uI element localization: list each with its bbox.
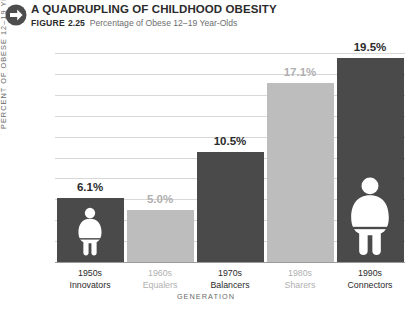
x-tick-generation: Balancers (195, 280, 265, 292)
chart-plot-area: 0.0%2.0%4.0%6.0%8.0%10.0%12.0%14.0%16.0%… (55, 53, 405, 262)
figure-number: 2.25 (68, 18, 85, 28)
bar-1950s[interactable] (57, 198, 124, 262)
bar-1980s[interactable] (267, 83, 334, 262)
figure-container: A QUADRUPLING OF CHILDHOOD OBESITY FIGUR… (0, 0, 412, 310)
x-tick-generation: Sharers (265, 280, 335, 292)
bar-value-label: 6.1% (57, 181, 124, 193)
bar-value-label: 19.5% (337, 41, 404, 53)
figure-caption-text: Percentage of Obese 12–19 Year-Olds (90, 18, 238, 28)
figure-header: A QUADRUPLING OF CHILDHOOD OBESITY FIGUR… (0, 0, 412, 36)
bar-1970s[interactable] (197, 152, 264, 262)
bar-value-label: 5.0% (127, 193, 194, 205)
x-axis-tick-1980s: 1980sSharers (265, 268, 335, 291)
obese-person-icon (344, 176, 396, 260)
x-tick-generation: Equalers (125, 280, 195, 292)
x-tick-generation: Innovators (55, 280, 125, 292)
x-axis-tick-1990s: 1990sConnectors (335, 268, 405, 291)
bar-1960s[interactable] (127, 210, 194, 262)
x-tick-decade: 1960s (125, 268, 195, 280)
x-tick-decade: 1990s (335, 268, 405, 280)
figure-caption: FIGURE2.25Percentage of Obese 12–19 Year… (31, 18, 237, 28)
obese-person-icon (74, 207, 106, 260)
x-tick-decade: 1980s (265, 268, 335, 280)
arrow-right-circle-icon (5, 4, 27, 26)
axis-baseline (55, 262, 405, 263)
x-tick-decade: 1970s (195, 268, 265, 280)
x-axis-tick-1960s: 1960sEqualers (125, 268, 195, 291)
bar-value-label: 10.5% (197, 135, 264, 147)
x-tick-decade: 1950s (55, 268, 125, 280)
x-axis-tick-1970s: 1970sBalancers (195, 268, 265, 291)
y-axis-label: PERCENT OF OBESE 12–19 YEAR-OLDS (0, 0, 8, 129)
x-axis-label: GENERATION (0, 292, 412, 301)
bar-value-label: 17.1% (267, 66, 334, 78)
x-axis-tick-1950s: 1950sInnovators (55, 268, 125, 291)
bar-1990s[interactable] (337, 58, 404, 262)
page-title: A QUADRUPLING OF CHILDHOOD OBESITY (31, 3, 277, 15)
x-tick-generation: Connectors (335, 280, 405, 292)
figure-word: FIGURE (31, 18, 65, 28)
